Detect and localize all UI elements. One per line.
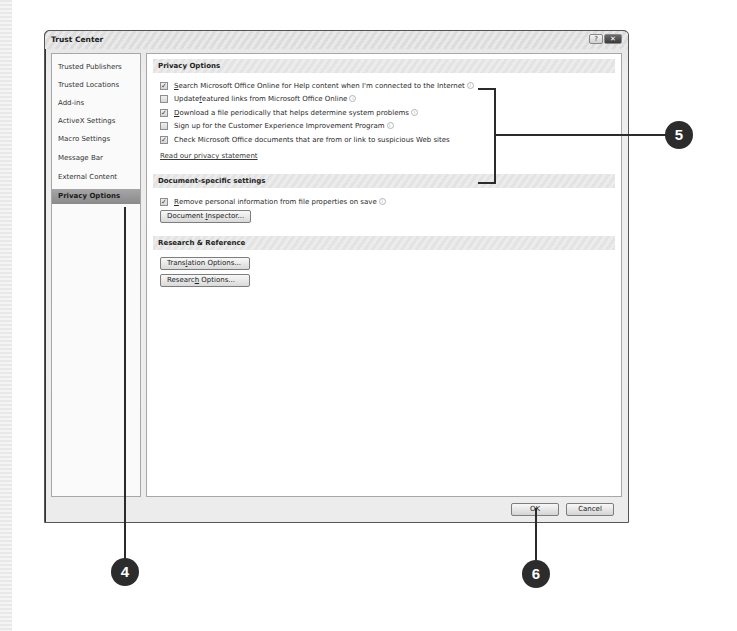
callout-bracket-side <box>494 88 496 184</box>
checkbox-checked[interactable]: ✓ <box>160 136 168 144</box>
close-icon[interactable]: ✕ <box>604 34 622 44</box>
privacy-statement-link[interactable]: Read our privacy statement <box>160 152 258 160</box>
option-check-suspicious-sites[interactable]: ✓ Check Microsoft Office documents that … <box>160 134 450 145</box>
callout-bracket-bottom <box>478 182 496 184</box>
info-icon: i <box>387 122 394 129</box>
option-ceip-signup[interactable]: Sign up for the Customer Experience Impr… <box>160 120 394 131</box>
document-settings-header: Document-specific settings <box>153 174 615 188</box>
sidebar-item-external-content[interactable]: External Content <box>52 170 140 185</box>
sidebar-item-macro-settings[interactable]: Macro Settings <box>52 132 140 147</box>
research-reference-header: Research & Reference <box>153 236 615 250</box>
callout-line-4 <box>124 207 126 559</box>
option-download-diagnostics[interactable]: ✓ Download a file periodically that help… <box>160 107 418 118</box>
page-edge-strip <box>0 0 12 631</box>
cancel-button[interactable]: Cancel <box>566 503 614 516</box>
window-title: Trust Center <box>51 35 103 44</box>
info-icon: i <box>379 198 386 205</box>
sidebar-item-trusted-publishers[interactable]: Trusted Publishers <box>52 60 140 75</box>
checkbox-checked[interactable]: ✓ <box>160 198 168 206</box>
sidebar-item-add-ins[interactable]: Add-ins <box>52 96 140 111</box>
sidebar-item-trusted-locations[interactable]: Trusted Locations <box>52 78 140 93</box>
checkbox-unchecked[interactable] <box>160 95 168 103</box>
callout-badge-4: 4 <box>111 558 139 586</box>
info-icon: i <box>411 109 418 116</box>
info-icon: i <box>349 95 356 102</box>
main-panel: Privacy Options ✓ Search Microsoft Offic… <box>146 53 622 497</box>
option-search-online-help[interactable]: ✓ Search Microsoft Office Online for Hel… <box>160 80 474 91</box>
callout-badge-6: 6 <box>522 560 550 588</box>
checkbox-unchecked[interactable] <box>160 122 168 130</box>
info-icon: i <box>467 82 474 89</box>
translation-options-button[interactable]: Translation Options... <box>160 257 250 270</box>
option-update-featured-links[interactable]: Update featured links from Microsoft Off… <box>160 93 356 104</box>
callout-line-6 <box>535 508 537 563</box>
trust-center-dialog: Trust Center ? ✕ Trusted Publishers Trus… <box>44 30 629 523</box>
checkbox-checked[interactable]: ✓ <box>160 82 168 90</box>
title-bar-buttons: ? ✕ <box>589 34 622 44</box>
research-options-button[interactable]: Research Options... <box>160 274 250 287</box>
privacy-options-header: Privacy Options <box>153 59 615 73</box>
callout-line-5 <box>496 134 666 136</box>
sidebar-item-message-bar[interactable]: Message Bar <box>52 151 140 166</box>
help-icon[interactable]: ? <box>589 34 603 44</box>
title-bar: Trust Center ? ✕ <box>45 31 628 49</box>
option-remove-personal-info[interactable]: ✓ Remove personal information from file … <box>160 196 386 207</box>
document-inspector-button[interactable]: Document Inspector... <box>160 210 251 223</box>
sidebar-item-activex-settings[interactable]: ActiveX Settings <box>52 114 140 129</box>
sidebar-item-privacy-options[interactable]: Privacy Options <box>52 189 140 204</box>
checkbox-checked[interactable]: ✓ <box>160 109 168 117</box>
sidebar: Trusted Publishers Trusted Locations Add… <box>51 53 141 497</box>
callout-badge-5: 5 <box>665 121 693 149</box>
